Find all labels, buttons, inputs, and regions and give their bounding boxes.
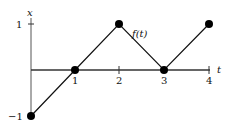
data-point [71, 66, 79, 74]
x-tick-label-1: 1 [72, 75, 78, 86]
y-axis-label: x [27, 7, 33, 18]
x-axis-label: t [217, 64, 222, 75]
x-tick-label-2: 2 [116, 75, 122, 86]
data-point [27, 112, 35, 120]
y-tick-label-minus1: −1 [8, 111, 23, 122]
curve-label: f(t) [131, 28, 148, 39]
data-point [115, 20, 123, 28]
chart-canvas: x t f(t) 1 −1 1 2 3 4 [0, 0, 233, 126]
x-tick-label-3: 3 [161, 75, 167, 86]
y-tick-label-1: 1 [16, 19, 22, 30]
data-point [160, 66, 168, 74]
x-tick-label-4: 4 [206, 75, 212, 86]
data-point [205, 20, 213, 28]
